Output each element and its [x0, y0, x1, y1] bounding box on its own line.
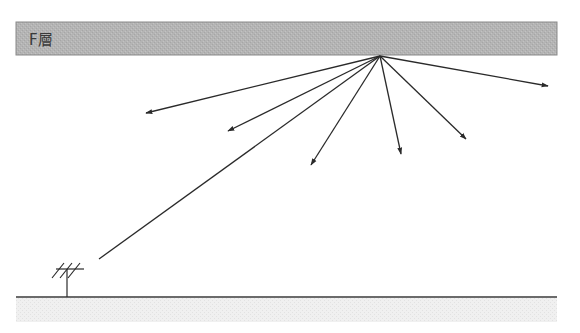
- antenna-icon: [52, 263, 84, 297]
- ground-fill: [16, 298, 557, 322]
- incident-ray: [99, 56, 380, 259]
- reflected-rays: [146, 56, 548, 165]
- reflected-ray-arrow: [380, 56, 401, 154]
- reflected-ray-arrow: [380, 56, 548, 86]
- f-layer-label: F層: [29, 31, 53, 49]
- ground: [16, 297, 557, 322]
- f-layer-band: [16, 22, 557, 55]
- reflected-ray-arrow: [228, 56, 380, 131]
- ionosphere-diagram: F層: [0, 0, 580, 333]
- f-layer: F層: [16, 22, 557, 55]
- reflected-ray-arrow: [146, 56, 380, 113]
